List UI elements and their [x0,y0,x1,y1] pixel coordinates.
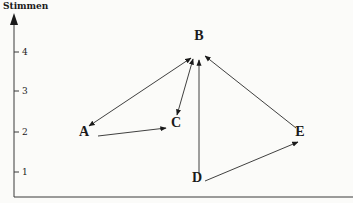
y-axis-arrow-icon [10,13,18,25]
edge-a-c [98,128,166,136]
edge-c-b [177,59,193,115]
edge-e-b [205,56,296,128]
node-d: D [192,170,202,185]
node-b: B [194,28,203,43]
y-tick-label: 3 [22,86,28,96]
y-tick-label: 4 [22,47,28,57]
node-a: A [79,124,90,139]
edge-d-e [205,142,298,181]
y-tick-label: 2 [22,127,28,137]
y-tick-label: 1 [22,167,28,177]
node-c: C [171,115,181,130]
node-e: E [295,124,304,139]
vote-graph-diagram: Stimmen 1234 ABCDE [0,0,353,203]
y-axis-title: Stimmen [3,1,49,11]
